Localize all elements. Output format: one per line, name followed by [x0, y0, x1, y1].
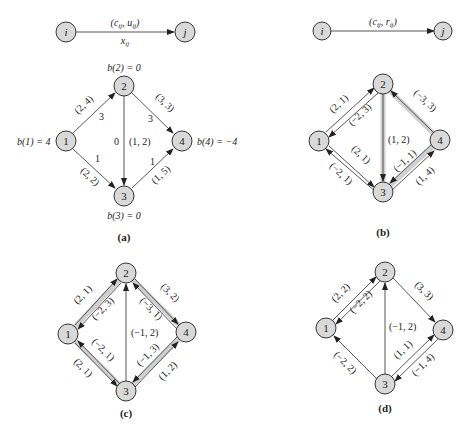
node-4: 4 [433, 320, 453, 340]
panel-d-caption: (d) [378, 402, 392, 415]
svg-text:2: 2 [123, 267, 129, 279]
legend-a: i j (cij, uij) xij [56, 17, 195, 48]
node-4: 4 [172, 131, 192, 151]
svg-text:1: 1 [63, 135, 69, 147]
arc-3-1-label: (−2, 1) [327, 160, 355, 187]
panel-c: 1 2 3 4 (2, 1) (−2, 3) (−2, 1) (2, 1) (−… [58, 263, 196, 420]
node-3: 3 [116, 381, 136, 401]
svg-text:4: 4 [179, 135, 185, 147]
supply-b2: b(2) = 0 [107, 62, 140, 74]
node-2: 2 [373, 74, 393, 94]
arc-3-2-label: (−1, 2) [131, 327, 158, 339]
svg-text:4: 4 [183, 326, 189, 338]
arc-1-3-flow: 1 [95, 153, 100, 164]
arc-1-2-flow: 3 [99, 111, 104, 122]
arc-4-2-label: (−3, 1) [137, 295, 165, 323]
arc-2-1-label: (−2, 2) [347, 288, 375, 316]
node-1: 1 [58, 324, 78, 344]
legend-a-node-i: i [56, 22, 76, 42]
legend-a-flow-label: xij [120, 35, 129, 48]
svg-text:1: 1 [65, 328, 71, 340]
legend-a-node-j: j [175, 22, 195, 42]
svg-text:2: 2 [382, 266, 388, 278]
svg-text:2: 2 [121, 80, 127, 92]
arc-2-1-label: (−2, 3) [346, 101, 374, 128]
node-2: 2 [114, 76, 134, 96]
node-1: 1 [56, 131, 76, 151]
panel-b: 1 2 3 4 (2, 1) (−2, 3) (2, 1) (−2, 1) (1… [309, 74, 450, 239]
panel-c-caption: (c) [120, 407, 133, 420]
node-1: 1 [316, 318, 336, 338]
arc-1-2-label: (2, 2) [329, 281, 353, 305]
arc-1-3-label: (2, 1) [349, 143, 373, 167]
supply-b3: b(3) = 0 [107, 210, 140, 222]
node-2: 2 [375, 262, 395, 282]
svg-text:4: 4 [437, 134, 443, 146]
node-2: 2 [116, 263, 136, 283]
arc-2-1-label: (−2, 3) [89, 295, 117, 323]
arc-3-1-label: (−2, 2) [331, 349, 359, 377]
svg-text:4: 4 [440, 324, 446, 336]
arc-1-3-label: (2, 2) [78, 165, 102, 189]
arc-1-2-label: (2, 4) [72, 93, 96, 117]
svg-text:3: 3 [123, 385, 129, 397]
svg-text:2: 2 [380, 78, 386, 90]
svg-text:1: 1 [323, 322, 329, 334]
arc-4-3-label: (−1, 3) [134, 341, 162, 369]
arc-2-4-label: (3, 3) [412, 279, 436, 303]
network-flow-diagram: i j (cij, uij) xij i j (cij, rij) 1 2 3 … [0, 0, 473, 430]
svg-text:3: 3 [380, 186, 386, 198]
node-3: 3 [373, 182, 393, 202]
arc-3-2-label: (−1, 2) [389, 321, 416, 333]
node-4: 4 [430, 130, 450, 150]
arc-2-3-flow: 0 [114, 136, 119, 147]
arc-3-4-flow: 1 [150, 156, 155, 167]
legend-b-cost-residual-label: (cij, rij) [369, 16, 397, 29]
legend-b-node-j: j [434, 22, 452, 40]
arc-2-3-label: (1, 2) [129, 136, 151, 148]
supply-b4: b(4) = −4 [197, 136, 237, 148]
svg-text:3: 3 [121, 190, 127, 202]
arc-3-4-label: (1, 1) [391, 338, 415, 362]
panel-a: 1 2 3 4 b(2) = 0 b(1) = 4 b(4) = −4 b(3)… [17, 62, 237, 244]
arc-2-4-label: (3, 3) [153, 91, 177, 115]
arc-2-4-label: (3, 2) [158, 281, 182, 305]
node-3: 3 [114, 186, 134, 206]
svg-text:1: 1 [316, 135, 322, 147]
legend-b-node-i: i [313, 22, 331, 40]
arc-1-2-label: (2, 1) [71, 283, 95, 307]
arc-2-3-label: (1, 2) [388, 134, 410, 146]
panel-a-caption: (a) [118, 231, 131, 244]
svg-text:3: 3 [382, 378, 388, 390]
legend-b: i j (cij, rij) [313, 16, 452, 40]
arc-2-4-flow: 3 [148, 113, 153, 124]
node-3: 3 [375, 374, 395, 394]
svg-text:i: i [64, 26, 67, 38]
supply-b1: b(1) = 4 [17, 136, 50, 148]
node-4: 4 [176, 322, 196, 342]
panel-b-caption: (b) [376, 226, 390, 239]
node-1: 1 [309, 131, 329, 151]
arc-3-4-label: (1, 2) [156, 359, 180, 383]
panel-d: 1 2 3 4 (2, 2) (−2, 2) (−2, 2) (−1, 2) (… [316, 262, 453, 415]
arc-4-2-label: (−3, 3) [411, 87, 439, 114]
svg-text:i: i [320, 25, 323, 37]
legend-a-cost-cap-label: (cij, uij) [111, 17, 141, 30]
